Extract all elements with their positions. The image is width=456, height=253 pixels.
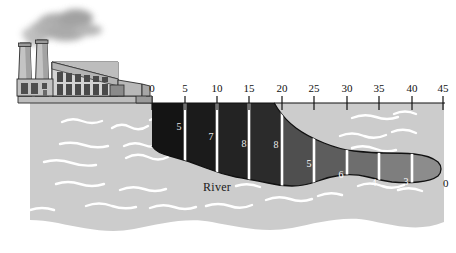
river-plume-illustration [0, 0, 456, 253]
axis-tick-label-20: 20 [270, 83, 294, 94]
plume-value-7: 3 [398, 177, 414, 187]
plume-value-3: 8 [268, 140, 284, 150]
axis-tick-label-35: 35 [367, 83, 391, 94]
axis-tick-label-10: 10 [205, 83, 229, 94]
river-label: River [203, 180, 231, 195]
axis-tick-label-40: 40 [400, 83, 424, 94]
axis-tick-label-25: 25 [302, 83, 326, 94]
axis-tick-label-15: 15 [237, 83, 261, 94]
factory [17, 40, 150, 96]
plume-end-value: 0 [443, 177, 449, 189]
factory-door [110, 85, 124, 96]
plume-value-4: 5 [301, 159, 317, 169]
plume-value-1: 7 [203, 132, 219, 142]
plume-value-2: 8 [236, 139, 252, 149]
figure-canvas: 0 5 10 15 20 25 30 35 40 45 5 7 8 8 5 6 … [0, 0, 456, 253]
axis-tick-label-30: 30 [335, 83, 359, 94]
factory-left-annex [17, 79, 53, 96]
axis-tick-label-0: 0 [140, 83, 164, 94]
smoke-cloud [22, 9, 102, 46]
plume-value-0: 5 [171, 122, 187, 132]
axis-tick-label-5: 5 [173, 83, 197, 94]
plume-value-6: 4 [366, 178, 382, 188]
axis-tick-label-45: 45 [431, 83, 455, 94]
plume-value-5: 6 [333, 170, 349, 180]
